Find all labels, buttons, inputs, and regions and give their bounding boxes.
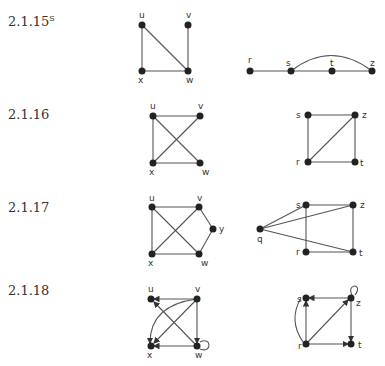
svg-text:z: z (356, 298, 361, 308)
svg-text:x: x (147, 350, 153, 360)
svg-text:w: w (201, 258, 208, 268)
svg-text:t: t (360, 158, 364, 168)
svg-text:w: w (186, 75, 193, 85)
svg-text:q: q (257, 234, 263, 244)
svg-text:x: x (148, 258, 154, 268)
svg-text:u: u (148, 284, 154, 294)
graph-2-1-17-right: sz q rt (257, 200, 366, 258)
svg-text:s: s (286, 58, 291, 68)
graph-2-1-18-left: uv xw (147, 284, 209, 360)
svg-text:v: v (195, 284, 201, 294)
svg-text:r: r (298, 341, 302, 351)
svg-text:w: w (202, 167, 209, 177)
svg-text:x: x (138, 75, 144, 85)
svg-text:r: r (296, 247, 300, 257)
svg-text:s: s (297, 294, 302, 304)
svg-text:u: u (149, 193, 155, 203)
svg-text:x: x (149, 167, 155, 177)
graph-2-1-17-left: uv y xw (148, 193, 225, 268)
graph-2-1-18-right: sz rt (295, 286, 362, 351)
graph-2-1-16-right: sz rt (296, 110, 367, 168)
graph-2-1-15-right: rs tz (247, 55, 376, 75)
svg-text:z: z (360, 200, 365, 210)
svg-text:t: t (359, 248, 363, 258)
svg-text:s: s (296, 110, 301, 120)
svg-text:s: s (296, 200, 301, 210)
svg-text:r: r (248, 55, 252, 65)
svg-text:v: v (198, 101, 204, 111)
svg-text:z: z (370, 58, 375, 68)
svg-text:t: t (358, 340, 362, 350)
svg-text:u: u (139, 10, 145, 20)
svg-text:r: r (296, 157, 300, 167)
svg-text:w: w (195, 350, 202, 360)
svg-text:z: z (362, 110, 367, 120)
graph-diagrams: uv xw rs tz uv xw sz rt (0, 0, 385, 366)
svg-text:t: t (330, 58, 334, 68)
graph-2-1-15-left: uv xw (138, 10, 193, 85)
svg-text:v: v (186, 10, 192, 20)
svg-text:u: u (150, 101, 156, 111)
svg-text:v: v (197, 193, 203, 203)
graph-2-1-16-left: uv xw (149, 101, 209, 177)
svg-text:y: y (219, 224, 225, 234)
